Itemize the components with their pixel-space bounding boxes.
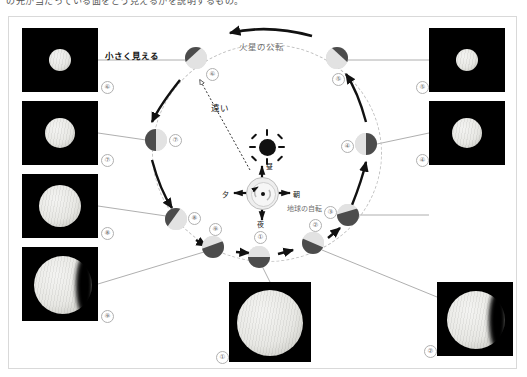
mars-photo-2-label: ② [424,345,437,358]
mars-photo-6 [22,28,98,92]
mars-photo-9 [22,247,98,321]
mars-disc [447,291,505,349]
mars-disc [34,256,92,314]
mars-disc [456,49,478,71]
mars-photo-2 [437,282,513,356]
mars-photo-8 [22,174,98,238]
mars-photo-7-label: ⑦ [101,154,114,167]
mars-photo-4-label: ④ [416,154,429,167]
mars-photo-6-label: ⑥ [101,81,114,94]
mars-disc [237,290,303,356]
mars-photo-1-label: ① [216,351,229,364]
mars-photo-5-label: ⑤ [416,81,429,94]
diagram-canvas: の光が当たっている面をどう見えるかを説明するもの。 [0,0,527,377]
mars-disc [452,118,482,148]
mars-disc [45,118,75,148]
mars-disc [49,49,71,71]
mars-photo-7 [22,101,98,165]
mars-disc [39,185,81,227]
mars-photo-4 [429,101,505,165]
mars-photo-1 [229,282,311,362]
mars-photo-8-label: ⑧ [101,227,114,240]
mars-photo-5 [429,28,505,92]
mars-photo-9-label: ⑨ [101,310,114,323]
